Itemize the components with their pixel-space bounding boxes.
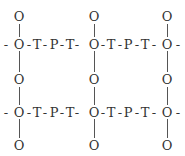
bond-dash: - [176,38,180,51]
bond-dash: - [118,106,122,119]
bond-dash: - [135,106,139,119]
bond-dash: - [118,38,122,51]
atom-p: P [50,38,59,51]
atom-t: T [33,38,42,51]
vertical-bond [19,51,20,72]
atom-o-pendant: O [162,10,173,23]
bond-dash: - [4,38,8,51]
vertical-bond [167,119,168,138]
atom-o: O [14,106,25,119]
vertical-bond [167,24,168,37]
atom-o-pendant: O [14,10,25,23]
atom-p: P [124,106,133,119]
bond-dash: - [27,106,31,119]
atom-o-pendant: O [14,139,25,152]
bond-dash: - [152,106,156,119]
atom-o-pendant: O [89,139,100,152]
atom-o: O [162,106,173,119]
bond-dash: - [101,106,105,119]
atom-t: T [141,38,150,51]
atom-t: T [107,106,116,119]
bond-dash: - [176,106,180,119]
bond-dash: - [75,106,79,119]
bond-dash: - [101,38,105,51]
bond-dash: - [152,38,156,51]
bond-dash: - [43,106,47,119]
bond-dash: - [27,38,31,51]
bond-dash: - [43,38,47,51]
atom-o: O [89,106,100,119]
atom-t: T [107,38,116,51]
atom-p: P [50,106,59,119]
atom-t: T [66,38,75,51]
atom-o-pendant: O [89,73,100,86]
atom-t: T [33,106,42,119]
vertical-bond [167,87,168,105]
bond-dash: - [75,38,79,51]
atom-o: O [89,38,100,51]
atom-t: T [141,106,150,119]
atom-o-pendant: O [162,73,173,86]
bond-dash: - [60,106,64,119]
vertical-bond [19,87,20,105]
atom-o-pendant: O [162,139,173,152]
atom-p: P [124,38,133,51]
bond-dash: - [60,38,64,51]
vertical-bond [94,24,95,37]
vertical-bond [94,119,95,138]
atom-o-pendant: O [14,73,25,86]
vertical-bond [94,51,95,72]
bond-dash: - [135,38,139,51]
atom-t: T [66,106,75,119]
bond-dash: - [4,106,8,119]
vertical-bond [94,87,95,105]
atom-o: O [14,38,25,51]
vertical-bond [19,119,20,138]
atom-o-pendant: O [89,10,100,23]
vertical-bond [167,51,168,72]
atom-o: O [162,38,173,51]
vertical-bond [19,24,20,37]
